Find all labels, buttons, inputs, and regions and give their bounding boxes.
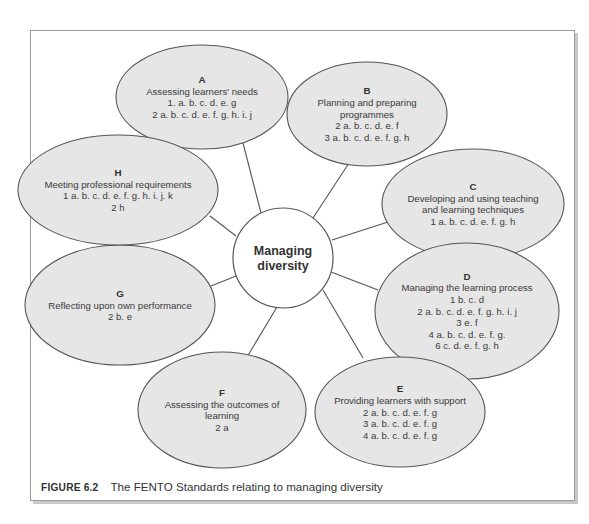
connector-line-e (323, 290, 363, 358)
node-f: FAssessing the outcomes oflearning2 a (138, 352, 306, 468)
node-title: Reflecting upon own performance (48, 300, 191, 311)
node-letter: A (198, 74, 205, 85)
connector-line-c (332, 222, 388, 240)
node-standard-ref: 2 a. b. c. d. e. f. g. h. i. j (417, 306, 517, 317)
node-title: Assessing the outcomes of (165, 399, 280, 410)
node-title: Managing the learning process (401, 282, 532, 293)
node-title: programmes (340, 109, 394, 120)
node-letter: F (219, 387, 225, 398)
node-title: Providing learners with support (334, 395, 466, 406)
node-letter: G (116, 288, 124, 299)
mind-map-diagram: AAssessing learners' needs1. a. b. c. d.… (0, 0, 589, 524)
node-standard-ref: 2 a. b. c. d. e. f (335, 120, 399, 131)
node-e: EProviding learners with support2 a. b. … (315, 357, 485, 467)
node-standard-ref: 2 a. b. c. d. e. f. g (363, 407, 437, 418)
node-a: AAssessing learners' needs1. a. b. c. d.… (116, 45, 288, 149)
node-title: Assessing learners' needs (146, 86, 258, 97)
center-label: Managing (254, 244, 312, 258)
node-c: CDeveloping and using teachingand learni… (382, 149, 564, 259)
node-standard-ref: 2 a (215, 422, 229, 433)
connector-line-a (243, 143, 261, 213)
figure-caption-text: The FENTO Standards relating to managing… (110, 480, 382, 493)
connector-line-d (331, 272, 378, 290)
node-standard-ref: 6 c. d. e. f. g. h (435, 340, 498, 351)
node-title: Meeting professional requirements (44, 179, 191, 190)
node-standard-ref: 1 a. b. c. d. e. f. g. h (431, 216, 516, 227)
node-standard-ref: 3 a. b. c. d. e. f. g (363, 418, 437, 429)
node-letter: H (114, 167, 121, 178)
node-standard-ref: 1 b. c. d (450, 294, 484, 305)
center-label: diversity (257, 259, 308, 273)
node-standard-ref: 1. a. b. c. d. e. g (168, 97, 237, 108)
figure-label: FIGURE 6.2 (41, 482, 98, 493)
node-standard-ref: 2 a. b. c. d. e. f. g. h. i. j (152, 109, 252, 120)
node-letter: D (463, 271, 470, 282)
node-h: HMeeting professional requirements1 a. b… (18, 135, 218, 245)
connector-line-h (210, 216, 236, 236)
node-g: GReflecting upon own performance2 b. e (25, 245, 215, 365)
node-standard-ref: 3 e. f (456, 317, 478, 328)
connector-line-f (244, 307, 277, 362)
node-standard-ref: 4 a. b. c. d. e. f. g (363, 430, 437, 441)
center-circle (233, 208, 333, 308)
connector-line-b (313, 163, 349, 218)
node-title: and learning techniques (422, 204, 524, 215)
node-standard-ref: 2 h (111, 202, 124, 213)
node-b: BPlanning and preparingprogrammes2 a. b.… (287, 62, 447, 166)
center-hub: Managingdiversity (233, 208, 333, 308)
node-standard-ref: 3 a. b. c. d. e. f. g. h (325, 132, 410, 143)
node-title: Developing and using teaching (407, 193, 538, 204)
node-standard-ref: 2 b. e (108, 311, 132, 322)
node-standard-ref: 1 a. b. c. d. e. f. g. h. i. j. k (63, 190, 173, 201)
node-title: Planning and preparing (317, 97, 416, 108)
node-title: learning (205, 410, 239, 421)
node-letter: E (397, 383, 404, 394)
node-standard-ref: 4 a. b. c. d. e. f. g. (429, 329, 506, 340)
node-letter: B (363, 85, 370, 96)
node-letter: C (469, 181, 476, 192)
figure-caption: FIGURE 6.2The FENTO Standards relating t… (41, 480, 383, 493)
